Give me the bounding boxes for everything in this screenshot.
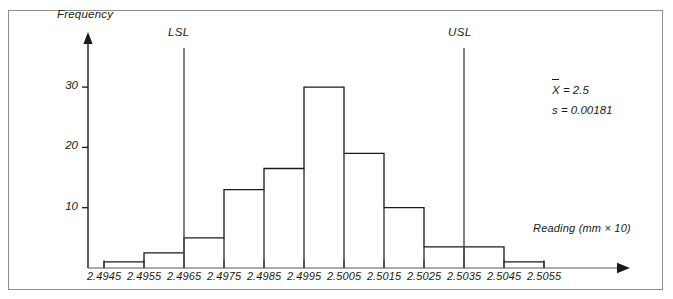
x-axis-title: Reading (mm × 10): [533, 222, 631, 234]
histogram-outline: [104, 87, 544, 268]
y-tick-label: 20: [52, 139, 78, 151]
y-tick-label: 30: [52, 79, 78, 91]
y-axis-title: Frequency: [57, 8, 113, 20]
bars-group: [104, 87, 544, 268]
statistics-annotation: X = 2.5 s = 0.00181: [552, 80, 612, 120]
x-axis-arrow: [617, 263, 630, 273]
stddev-value: = 0.00181: [561, 104, 612, 116]
spec-limit-lines: [184, 48, 464, 268]
histogram-plot: [0, 0, 673, 299]
figure: Frequency Reading (mm × 10) 102030 2.494…: [0, 0, 673, 299]
mean-value: = 2.5: [563, 84, 589, 96]
spec-limit-label-lsl: LSL: [168, 26, 190, 38]
stddev-statistic: s = 0.00181: [552, 100, 612, 120]
spec-limit-label-usl: USL: [448, 26, 472, 38]
y-tick-label: 10: [52, 200, 78, 212]
y-axis-arrow: [83, 32, 92, 44]
axis-group: [82, 32, 630, 273]
x-tick-label: 2.5055: [516, 270, 572, 282]
stddev-symbol: s: [552, 104, 558, 116]
mean-statistic: X = 2.5: [552, 80, 612, 100]
mean-symbol: X: [552, 80, 560, 100]
